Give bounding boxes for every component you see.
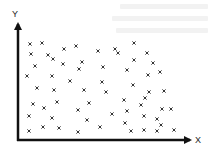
data-point-x-marker	[104, 90, 107, 93]
data-point-x-marker	[101, 65, 104, 68]
data-point-x-marker	[113, 47, 116, 50]
data-point-x-marker	[155, 117, 158, 120]
data-point-x-marker	[42, 106, 45, 109]
data-point-x-marker	[143, 96, 146, 99]
data-point-x-marker	[155, 129, 158, 132]
data-point-x-marker	[139, 103, 142, 106]
data-point-x-marker	[172, 128, 175, 131]
data-point-x-marker	[160, 107, 163, 110]
data-point-x-marker	[162, 89, 165, 92]
data-point-x-marker	[76, 108, 79, 111]
data-point-x-marker	[25, 74, 28, 77]
data-point-x-marker	[61, 62, 64, 65]
data-point-x-marker	[80, 60, 83, 63]
data-point-x-marker	[110, 112, 113, 115]
data-point-x-marker	[158, 70, 161, 73]
data-point-x-marker	[33, 64, 36, 67]
data-point-x-marker	[27, 114, 30, 117]
data-point-x-marker	[50, 116, 53, 119]
data-point-x-marker	[122, 98, 125, 101]
data-point-x-marker	[55, 100, 58, 103]
data-point-x-marker	[116, 51, 119, 54]
data-point-x-marker	[142, 114, 145, 117]
data-point-x-marker	[100, 80, 103, 83]
data-point-x-marker	[62, 47, 65, 50]
scatter-chart: Y X	[0, 0, 211, 151]
data-point-x-marker	[125, 109, 128, 112]
data-point-x-marker	[41, 125, 44, 128]
data-point-x-marker	[147, 90, 150, 93]
data-point-x-marker	[169, 107, 172, 110]
data-point-x-marker	[146, 73, 149, 76]
data-point-x-marker	[68, 79, 71, 82]
data-point-x-marker	[46, 53, 49, 56]
data-point-x-marker	[96, 49, 99, 52]
data-point-x-marker	[85, 118, 88, 121]
data-point-x-marker	[28, 42, 31, 45]
data-point-x-marker	[131, 83, 134, 86]
data-point-x-marker	[77, 67, 80, 70]
data-point-x-marker	[159, 123, 162, 126]
data-point-x-marker	[74, 44, 77, 47]
data-point-x-marker	[142, 128, 145, 131]
data-point-x-marker	[50, 74, 53, 77]
data-point-x-marker	[129, 129, 132, 132]
data-point-x-marker	[31, 102, 34, 105]
data-point-x-marker	[76, 130, 79, 133]
data-point-x-marker	[132, 58, 135, 61]
x-axis-label: X	[195, 135, 201, 145]
data-point-x-marker	[98, 125, 101, 128]
data-point-x-marker	[52, 88, 55, 91]
scatter-points	[25, 41, 175, 133]
data-point-x-marker	[123, 121, 126, 124]
data-point-x-marker	[125, 68, 128, 71]
data-point-x-marker	[29, 52, 32, 55]
data-point-x-marker	[82, 88, 85, 91]
data-point-x-marker	[35, 86, 38, 89]
data-point-x-marker	[87, 101, 90, 104]
y-axis-label: Y	[12, 9, 18, 19]
data-point-x-marker	[132, 41, 135, 44]
data-point-x-marker	[27, 129, 30, 132]
data-point-x-marker	[145, 51, 148, 54]
data-point-x-marker	[51, 57, 54, 60]
data-point-x-marker	[57, 126, 60, 129]
data-point-x-marker	[40, 41, 43, 44]
data-point-x-marker	[151, 61, 154, 64]
